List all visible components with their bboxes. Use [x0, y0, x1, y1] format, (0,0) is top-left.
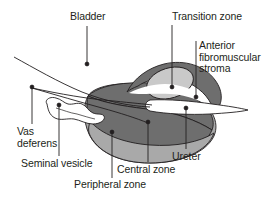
leader-dot-anterior-fibromuscular-stroma — [194, 95, 198, 99]
label-ureter: Ureter — [172, 151, 201, 163]
label-peripheral-zone: Peripheral zone — [74, 179, 146, 191]
label-central-zone: Central zone — [117, 164, 175, 176]
leader-dot-peripheral-zone — [110, 130, 114, 134]
leader-dot-bladder — [85, 62, 89, 66]
label-seminal-vesicle: Seminal vesicle — [21, 158, 92, 170]
prostate-anatomy-diagram: Bladder Transition zone Anterior fibromu… — [0, 0, 275, 202]
leader-dot-transition-zone — [170, 85, 174, 89]
leader-dot-vas-deferens — [30, 85, 34, 89]
label-transition-zone: Transition zone — [172, 11, 242, 23]
label-anterior-fibromuscular-stroma: Anterior fibromuscular stroma — [199, 40, 261, 75]
leader-dot-central-zone — [146, 120, 150, 124]
label-bladder: Bladder — [70, 11, 106, 23]
label-vas-deferens: Vas deferens — [17, 126, 57, 149]
ureter-shape — [146, 100, 249, 115]
leader-dot-seminal-vesicle — [57, 103, 61, 107]
leader-dot-ureter — [184, 106, 188, 110]
